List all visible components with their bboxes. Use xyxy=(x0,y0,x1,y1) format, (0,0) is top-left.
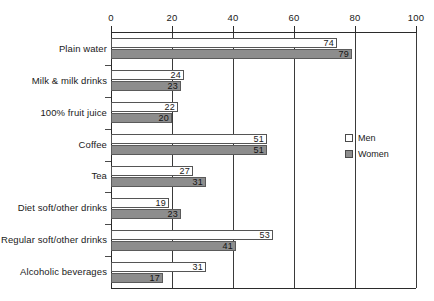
x-tick-label-80: 80 xyxy=(350,12,361,23)
x-tick-0 xyxy=(111,26,112,33)
category-notch xyxy=(105,65,111,66)
bar-value-label: 41 xyxy=(216,241,233,251)
legend-item-men[interactable]: Men xyxy=(345,131,389,144)
plot-bottom-line xyxy=(111,288,416,289)
bar-value-label: 74 xyxy=(317,38,334,48)
category-label: Plain water xyxy=(59,43,107,54)
x-tick-label-20: 20 xyxy=(167,12,178,23)
x-axis-line xyxy=(111,32,416,33)
legend-label: Men xyxy=(358,133,376,143)
category-label: Diet soft/other drinks xyxy=(18,202,107,213)
category-label: Alcoholic beverages xyxy=(20,266,107,277)
bar-value-label: 53 xyxy=(253,230,270,240)
gridline-100 xyxy=(416,33,417,288)
chart-legend: MenWomen xyxy=(345,131,389,163)
x-tick-20 xyxy=(172,26,173,33)
category-label: Coffee xyxy=(79,139,107,150)
bar-value-label: 31 xyxy=(186,177,203,187)
bar-value-label: 23 xyxy=(161,209,178,219)
category-label: Tea xyxy=(91,170,107,181)
category-notch xyxy=(105,256,111,257)
category-label: Regular soft/other drinks xyxy=(1,234,107,245)
women-swatch-icon xyxy=(345,150,353,158)
category-label: 100% fruit juice xyxy=(40,107,107,118)
x-tick-80 xyxy=(355,26,356,33)
bar-value-label: 51 xyxy=(247,145,264,155)
category-label: Milk & milk drinks xyxy=(32,75,107,86)
bar-value-label: 19 xyxy=(149,198,166,208)
category-notch xyxy=(105,224,111,225)
bar-value-label: 27 xyxy=(173,166,190,176)
bar-men xyxy=(111,230,273,240)
men-swatch-icon xyxy=(345,134,353,142)
x-tick-label-0: 0 xyxy=(108,12,113,23)
bar-value-label: 24 xyxy=(164,70,181,80)
bar-value-label: 79 xyxy=(332,49,349,59)
category-notch xyxy=(105,192,111,193)
legend-label: Women xyxy=(358,149,389,159)
bar-value-label: 20 xyxy=(152,113,169,123)
bar-women xyxy=(111,49,352,59)
bar-value-label: 17 xyxy=(143,273,160,283)
x-tick-label-60: 60 xyxy=(289,12,300,23)
bar-value-label: 51 xyxy=(247,134,264,144)
bar-chart: 020406080100 Plain waterMilk & milk drin… xyxy=(0,0,434,301)
x-tick-100 xyxy=(416,26,417,33)
bar-value-label: 23 xyxy=(161,81,178,91)
bar-value-label: 31 xyxy=(186,262,203,272)
category-notch xyxy=(105,129,111,130)
x-tick-label-100: 100 xyxy=(408,12,424,23)
x-tick-60 xyxy=(294,26,295,33)
bar-men xyxy=(111,38,337,48)
gridline-60 xyxy=(294,33,295,288)
x-tick-label-40: 40 xyxy=(228,12,239,23)
category-notch xyxy=(105,161,111,162)
bar-men xyxy=(111,134,267,144)
legend-item-women[interactable]: Women xyxy=(345,147,389,160)
category-notch xyxy=(105,97,111,98)
bar-women xyxy=(111,145,267,155)
bar-value-label: 22 xyxy=(158,102,175,112)
x-tick-40 xyxy=(233,26,234,33)
